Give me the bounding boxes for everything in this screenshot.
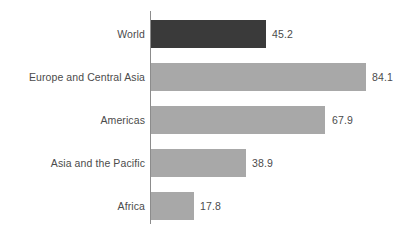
bar-asia-and-the-pacific[interactable] [151, 149, 246, 177]
bar-row-americas: Americas 67.9 [0, 106, 413, 134]
bar-world[interactable] [151, 20, 266, 48]
bar-europe-and-central-asia[interactable] [151, 63, 366, 91]
value-label-europe-and-central-asia: 84.1 [372, 63, 393, 91]
bar-row-world: World 45.2 [0, 20, 413, 48]
bar-chart: World 45.2 Europe and Central Asia 84.1 … [0, 0, 413, 237]
category-label-europe-and-central-asia: Europe and Central Asia [0, 63, 145, 91]
category-label-africa: Africa [0, 192, 145, 220]
value-label-africa: 17.8 [200, 192, 221, 220]
bar-africa[interactable] [151, 192, 194, 220]
plot-area: World 45.2 Europe and Central Asia 84.1 … [0, 0, 413, 237]
category-label-asia-and-the-pacific: Asia and the Pacific [0, 149, 145, 177]
bar-row-asia-and-the-pacific: Asia and the Pacific 38.9 [0, 149, 413, 177]
value-label-world: 45.2 [272, 20, 293, 48]
value-label-americas: 67.9 [332, 106, 353, 134]
bar-row-africa: Africa 17.8 [0, 192, 413, 220]
bar-americas[interactable] [151, 106, 325, 134]
bar-row-europe-and-central-asia: Europe and Central Asia 84.1 [0, 63, 413, 91]
category-label-americas: Americas [0, 106, 145, 134]
category-label-world: World [0, 20, 145, 48]
value-label-asia-and-the-pacific: 38.9 [252, 149, 273, 177]
